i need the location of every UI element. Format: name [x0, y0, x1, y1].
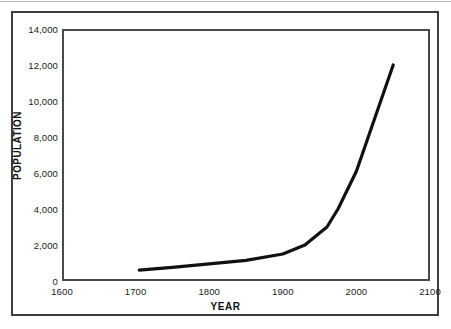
y-tick-label: 6,000	[34, 168, 58, 179]
x-tick-label: 1900	[272, 286, 294, 297]
x-axis-title: YEAR	[0, 301, 451, 312]
y-axis-title: POPULATION	[12, 86, 23, 206]
y-tick-label: 0	[53, 276, 58, 287]
x-tick-label: 2000	[346, 286, 368, 297]
y-axis-tick-labels: 02,0004,0006,0008,00010,00012,00014,000	[0, 0, 58, 329]
y-tick-label: 10,000	[28, 96, 58, 107]
page-top-rule	[0, 1, 451, 2]
y-tick-label: 12,000	[28, 60, 58, 71]
plot-area	[62, 29, 430, 281]
x-tick-label: 1700	[125, 286, 147, 297]
x-tick-label: 2100	[419, 286, 441, 297]
y-tick-label: 8,000	[34, 132, 58, 143]
x-tick-label: 1800	[198, 286, 220, 297]
population-line-chart-figure: 02,0004,0006,0008,00010,00012,00014,000 …	[0, 0, 451, 329]
x-axis-tick-labels: 160017001800190020002100	[0, 286, 451, 302]
y-tick-label: 14,000	[28, 24, 58, 35]
x-tick-label: 1600	[51, 286, 73, 297]
y-tick-label: 4,000	[34, 204, 58, 215]
y-tick-label: 2,000	[34, 240, 58, 251]
